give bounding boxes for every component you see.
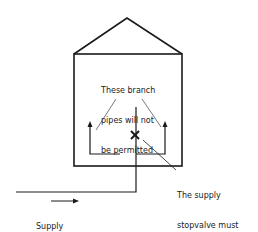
stopvalve-note-line-1: The supply (177, 191, 242, 201)
stopvalve-note: The supply stopvalve must be fitted upst… (177, 171, 242, 232)
branch-note-line-1: These branch (101, 86, 155, 96)
left-branch-arrow-icon (88, 121, 93, 127)
house-roof (74, 18, 182, 54)
stopvalve-note-line-2: stopvalve must (177, 221, 242, 231)
branch-note-line-2: pipes will not (101, 116, 155, 126)
branch-note: These branch pipes will not be permitted (101, 66, 155, 166)
flow-arrow-icon (73, 199, 79, 204)
supply-pipe-label: Supply pipe (36, 202, 63, 232)
right-branch-arrow-icon (163, 121, 168, 127)
supply-pipe-label-line-1: Supply (36, 222, 63, 232)
branch-note-line-3: be permitted (101, 146, 155, 156)
